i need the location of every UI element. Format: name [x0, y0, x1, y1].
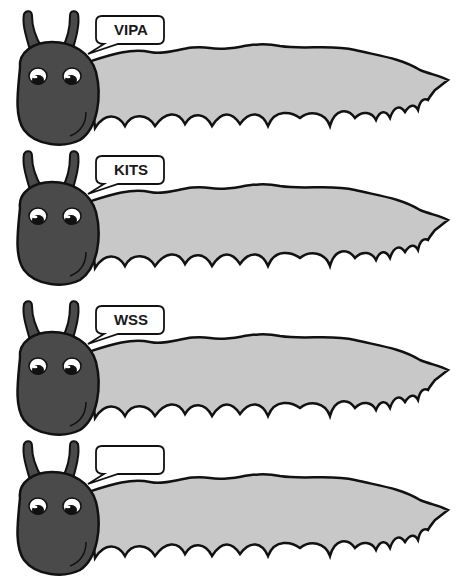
- caterpillar-body: [88, 474, 448, 558]
- caterpillar: KITS: [0, 140, 463, 285]
- eye-left: [29, 358, 47, 375]
- eye-right: [63, 68, 81, 85]
- bubble-label: KITS: [100, 156, 162, 184]
- caterpillar: VIPA: [0, 0, 463, 145]
- head: [18, 472, 99, 575]
- eye-left: [29, 208, 47, 225]
- bubble-label: VIPA: [100, 16, 162, 44]
- caterpillar: WSS: [0, 290, 463, 435]
- caterpillar-body: [88, 334, 448, 418]
- head: [18, 42, 99, 145]
- head: [18, 332, 99, 435]
- caterpillar-body: [88, 44, 448, 128]
- bubble-label: [100, 446, 162, 474]
- caterpillar-drawing: [0, 290, 463, 440]
- caterpillar-drawing: [0, 140, 463, 290]
- eye-left: [29, 68, 47, 85]
- eye-right: [63, 208, 81, 225]
- caterpillar: [0, 430, 463, 575]
- caterpillar-body: [88, 184, 448, 268]
- eye-left: [29, 498, 47, 515]
- caterpillar-drawing: [0, 0, 463, 150]
- bubble-label: WSS: [100, 306, 162, 334]
- caterpillar-drawing: [0, 430, 463, 580]
- eye-right: [63, 498, 81, 515]
- head: [18, 182, 99, 285]
- eye-right: [63, 358, 81, 375]
